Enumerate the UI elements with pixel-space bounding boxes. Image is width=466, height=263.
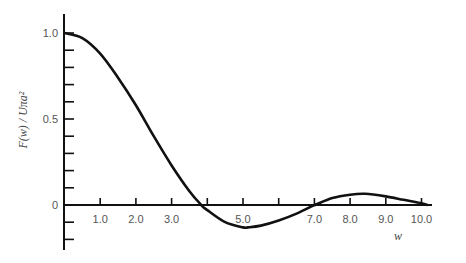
x-ticks: 1.02.03.05.07.08.09.010.0 xyxy=(93,198,433,225)
y-ticks: 1.00.50 xyxy=(43,27,74,239)
x-tick-label: 1.0 xyxy=(93,213,108,225)
data-curve xyxy=(65,33,428,228)
y-axis-label: F(w) / Uπa² xyxy=(16,91,30,149)
x-tick-label: 2.0 xyxy=(128,213,143,225)
y-tick-label: 1.0 xyxy=(43,27,58,39)
x-tick-label: 10.0 xyxy=(411,213,432,225)
x-tick-label: 9.0 xyxy=(378,213,393,225)
x-axis-label: w xyxy=(394,229,402,243)
x-tick-label: 8.0 xyxy=(342,213,357,225)
x-tick-label: 5.0 xyxy=(235,213,250,225)
y-tick-label: 0.5 xyxy=(43,113,58,125)
x-tick-label: 3.0 xyxy=(164,213,179,225)
chart: 1.00.50 1.02.03.05.07.08.09.010.0 F(w) /… xyxy=(0,0,466,263)
x-tick-label: 7.0 xyxy=(307,213,322,225)
y-tick-label: 0 xyxy=(52,199,58,211)
